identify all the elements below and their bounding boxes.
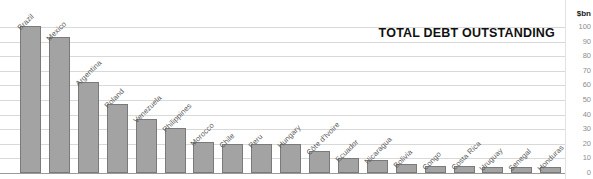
- bar[interactable]: [309, 151, 330, 173]
- bar[interactable]: [222, 144, 243, 173]
- y-axis: $bn 0102030405060708090100: [566, 0, 593, 179]
- y-axis-tick-20: 20: [583, 140, 591, 148]
- y-axis-tick-70: 70: [583, 67, 591, 75]
- y-axis-tick-50: 50: [583, 96, 591, 104]
- bar[interactable]: [454, 166, 475, 173]
- bar[interactable]: [136, 119, 157, 173]
- bar[interactable]: [482, 167, 503, 173]
- bar[interactable]: [78, 82, 99, 173]
- y-axis-tick-60: 60: [583, 81, 591, 89]
- bar[interactable]: [396, 164, 417, 173]
- bar[interactable]: [511, 167, 532, 173]
- gridline-0: [0, 173, 566, 174]
- y-axis-tick-90: 90: [583, 38, 591, 46]
- y-axis-tick-10: 10: [583, 154, 591, 162]
- bar[interactable]: [338, 158, 359, 173]
- bar-chart: BrazilMexicoArgentinaPolandVenezuelaPhil…: [0, 0, 593, 179]
- bar[interactable]: [165, 128, 186, 173]
- y-axis-tick-0: 0: [587, 169, 591, 177]
- bar[interactable]: [49, 37, 70, 173]
- bar[interactable]: [193, 142, 214, 173]
- bar[interactable]: [540, 167, 561, 173]
- bars-layer: [0, 27, 566, 173]
- bar[interactable]: [425, 166, 446, 173]
- bar[interactable]: [107, 104, 128, 173]
- y-axis-tick-30: 30: [583, 125, 591, 133]
- bar[interactable]: [367, 160, 388, 173]
- bar[interactable]: [251, 144, 272, 173]
- chart-title: TOTAL DEBT OUTSTANDING: [379, 26, 555, 40]
- y-axis-tick-100: 100: [578, 23, 591, 31]
- bar[interactable]: [280, 144, 301, 173]
- bar[interactable]: [20, 26, 41, 173]
- y-axis-unit-label: $bn: [577, 9, 591, 18]
- y-axis-tick-40: 40: [583, 111, 591, 119]
- y-axis-tick-80: 80: [583, 52, 591, 60]
